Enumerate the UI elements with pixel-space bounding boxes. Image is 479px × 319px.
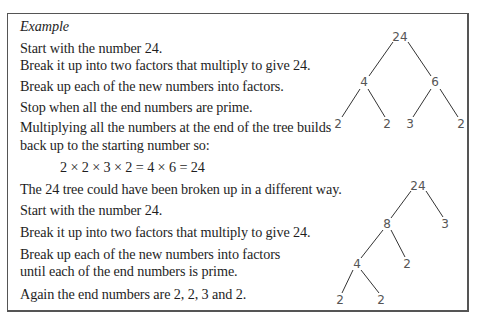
tree1-leaf: 2 bbox=[383, 117, 391, 131]
tree2-node: 2 bbox=[403, 257, 411, 271]
tree1-root: 24 bbox=[392, 30, 407, 44]
tree2-leaf: 2 bbox=[377, 293, 385, 307]
tree2-node: 4 bbox=[353, 257, 361, 271]
tree1-leaf: 3 bbox=[406, 117, 414, 131]
tree1-node: 4 bbox=[360, 75, 368, 89]
tree2-root: 24 bbox=[410, 179, 425, 193]
tree1-leaf: 2 bbox=[334, 117, 342, 131]
tree1-node: 6 bbox=[431, 75, 439, 89]
factor-tree-1: 24 4 6 2 2 3 2 bbox=[334, 30, 465, 131]
factor-trees: 24 4 6 2 2 3 2 24 8 3 4 2 2 2 bbox=[0, 0, 479, 319]
factor-tree-2: 24 8 3 4 2 2 2 bbox=[336, 179, 449, 307]
tree1-leaf: 2 bbox=[457, 117, 465, 131]
tree2-leaf: 2 bbox=[336, 293, 344, 307]
tree2-node: 8 bbox=[383, 217, 391, 231]
tree2-node: 3 bbox=[441, 217, 449, 231]
